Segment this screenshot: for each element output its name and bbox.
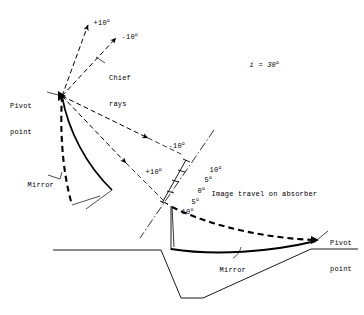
pivot-point-lower-line1: Pivot [330, 239, 352, 248]
left-mirror-dashed-base [72, 196, 100, 205]
mirror-left-value: Mirror [28, 181, 54, 189]
bottom-mirror-solid-curve [171, 241, 316, 252]
degree-symbol: o [190, 206, 193, 212]
left-mirror-dashed-curve [61, 96, 72, 205]
label-reflected-plus10: +10o [128, 159, 162, 185]
reflected-minus10-value: -10 [169, 142, 182, 150]
absorber-tick-upper-outer [183, 159, 190, 162]
label-chief-rays-annotation: Chief rays [109, 57, 131, 125]
incidence-angle-value: i = 30 [250, 61, 276, 69]
degree-symbol: o [182, 140, 185, 146]
label-pivot-point-lower: Pivot point [330, 222, 352, 290]
label-pivot-point-upper: Pivot point [10, 85, 32, 153]
bottom-pivot-marker-group [311, 231, 328, 244]
bottom-pivot-wedge [311, 236, 319, 244]
mirror-bottom-value: Mirror [220, 266, 246, 274]
left-mirror-solid-curve [62, 96, 112, 190]
label-chief-ray-minus10: -10o [104, 24, 138, 50]
bottom-mirror-solid-group [171, 241, 316, 252]
pivot-point-lower-line2: point [330, 265, 352, 274]
label-mirror-bottom: Mirror [202, 257, 246, 283]
left-mirror-solid-group [62, 96, 112, 209]
upper-pivot-leader [47, 92, 58, 95]
label-image-travel: Image travel on absorber [194, 181, 317, 207]
image-travel-value: Image travel on absorber [212, 190, 318, 198]
label-incidence-angle: i = 30o [232, 52, 279, 78]
chief-rays-line1: Chief [109, 74, 131, 83]
degree-symbol: o [276, 59, 279, 65]
degree-symbol: o [209, 174, 212, 180]
degree-symbol: o [107, 17, 110, 23]
absorber-tick-center [172, 180, 179, 182]
label-reflected-minus10: -10o [151, 133, 185, 159]
label-mirror-left: Mirror [10, 172, 54, 198]
optical-diagram-figure: +10o -10o Chief rays i = 30o Pivot point… [0, 0, 364, 315]
reflected-plus10-value: +10 [146, 168, 159, 176]
degree-symbol: o [159, 166, 162, 172]
pivot-point-upper-line1: Pivot [10, 102, 32, 111]
chief-ray-minus10-value: -10 [122, 33, 135, 41]
degree-symbol: o [218, 164, 221, 170]
absorber-tick-label-lower-outer: 10o [164, 199, 194, 225]
chief-rays-leader [96, 57, 105, 63]
pivot-point-upper-line2: point [10, 128, 32, 137]
reflected-ray-minus10-line [62, 96, 148, 138]
chief-rays-line2: rays [109, 100, 131, 109]
bottom-pivot-leader [318, 231, 328, 239]
degree-symbol: o [135, 31, 138, 37]
chief-ray-plus10-line [62, 25, 88, 96]
left-mirror-dashed-group [61, 96, 100, 205]
trough-left-wall [161, 250, 181, 298]
